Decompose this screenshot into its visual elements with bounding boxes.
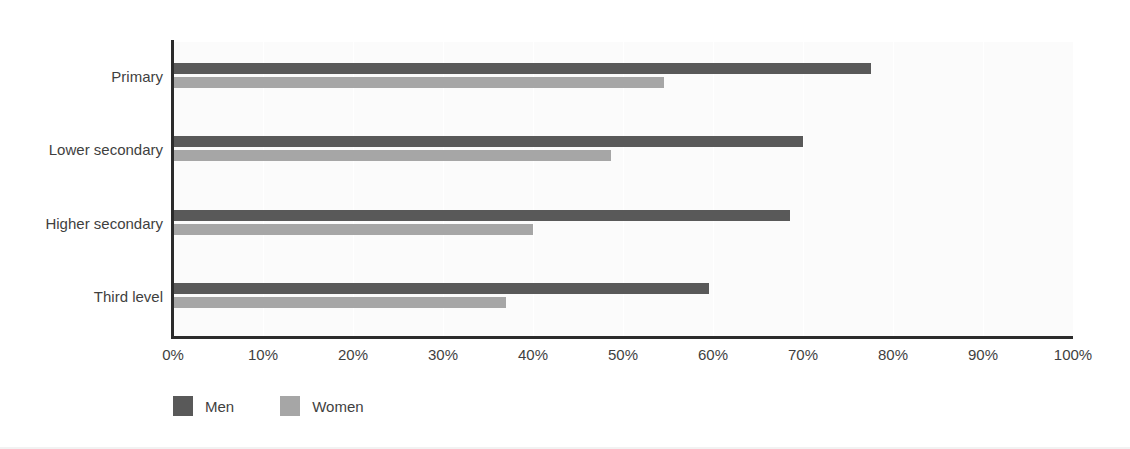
x-axis-tick-label: 0%	[162, 346, 184, 363]
gridline	[1073, 42, 1074, 336]
chart-title	[18, 0, 1018, 6]
y-axis-tick-label: Primary	[3, 68, 163, 85]
bar-group	[173, 281, 1073, 311]
bar-men-primary	[173, 63, 871, 74]
x-axis-tick-label: 70%	[788, 346, 818, 363]
x-axis-tick-label: 20%	[338, 346, 368, 363]
x-axis-tick-label: 90%	[968, 346, 998, 363]
bar-men-third-level	[173, 283, 709, 294]
legend-label: Women	[312, 398, 363, 415]
bar-group	[173, 208, 1073, 238]
bar-women-primary	[173, 77, 664, 88]
x-axis-tick-label: 30%	[428, 346, 458, 363]
x-axis-tick-label: 60%	[698, 346, 728, 363]
bar-women-third-level	[173, 297, 506, 308]
y-axis-tick-label: Third level	[3, 288, 163, 305]
x-axis-tick-label: 50%	[608, 346, 638, 363]
y-axis-labels: PrimaryLower secondaryHigher secondaryTh…	[0, 42, 163, 336]
x-axis-tick-label: 100%	[1054, 346, 1092, 363]
plot-area	[173, 42, 1073, 336]
x-axis-labels: 0%10%20%30%40%50%60%70%80%90%100%	[173, 346, 1073, 370]
bar-men-lower-secondary	[173, 136, 803, 147]
y-axis-tick-label: Higher secondary	[3, 215, 163, 232]
x-axis-tick-label: 80%	[878, 346, 908, 363]
y-axis-line	[171, 40, 174, 338]
bar-women-higher-secondary	[173, 224, 533, 235]
x-axis-tick-label: 10%	[248, 346, 278, 363]
bar-men-higher-secondary	[173, 210, 790, 221]
legend-label: Men	[205, 398, 234, 415]
bar-group	[173, 134, 1073, 164]
chart-container: PrimaryLower secondaryHigher secondaryTh…	[0, 0, 1130, 449]
y-axis-tick-label: Lower secondary	[3, 141, 163, 158]
x-axis-tick-label: 40%	[518, 346, 548, 363]
legend-item-men[interactable]: Men	[173, 396, 234, 416]
x-axis-line	[171, 336, 1073, 339]
legend-item-women[interactable]: Women	[280, 396, 363, 416]
bar-women-lower-secondary	[173, 150, 611, 161]
bar-group	[173, 61, 1073, 91]
legend-swatch-icon	[173, 396, 193, 416]
legend-swatch-icon	[280, 396, 300, 416]
legend: MenWomen	[173, 396, 364, 416]
